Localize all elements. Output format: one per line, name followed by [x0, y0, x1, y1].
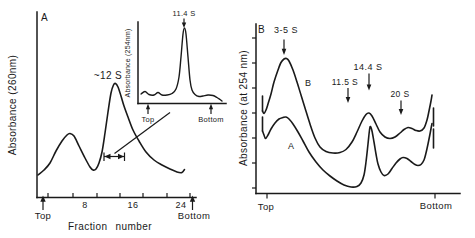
panel-a-bottom-label: Bottom [178, 210, 211, 221]
annotation-14-4s-arrow-icon [367, 74, 372, 91]
inset-top-label: Top [142, 115, 155, 124]
panel-a-inset: 11.4 S Top Bottom Absorbance (254nm) [124, 9, 226, 124]
panel-b-letter: B [258, 24, 265, 35]
annotation-11-5s: 11.5 S [332, 77, 358, 87]
inset-peak-annotation: 11.4 S [173, 9, 196, 18]
panel-a-curve [38, 83, 185, 175]
fraction-range-double-arrow-icon [104, 153, 125, 162]
panel-b-y-axis-title: Absorbance (at 254 nm) [238, 50, 249, 166]
panel-a-peak-annotation: ~12 S [94, 70, 122, 81]
panel-a-tick-16: 16 [127, 200, 138, 210]
annotation-20s-arrow-icon [399, 101, 404, 116]
panel-a: 8 16 24 Top Bottom Fraction number Absor… [7, 12, 210, 232]
panel-a-x-axis-title: Fraction number [68, 221, 152, 232]
panel-a-letter: A [41, 12, 48, 23]
annotation-20s: 20 S [390, 89, 409, 99]
panel-b-bottom-label: Bottom [420, 200, 453, 211]
panel-a-y-axis-title: Absorbance (260nm) [7, 55, 18, 156]
inset-peak-arrow-icon [182, 19, 186, 29]
inset-bottom-label: Bottom [198, 115, 224, 124]
panel-b-curve-upper [263, 58, 433, 153]
panel-a-tick-24: 24 [175, 200, 186, 210]
curve-upper-label: B [305, 78, 312, 88]
annotation-3-5s: 3-5 S [274, 25, 298, 35]
curve-lower-label: A [288, 141, 295, 151]
panel-b-top-label: Top [258, 201, 275, 212]
panel-b: B Absorbance (at 254 nm) 3-5 S 11.5 S 14… [238, 24, 460, 212]
panel-a-top-label: Top [35, 210, 52, 221]
annotation-11-5s-arrow-icon [346, 88, 351, 103]
annotation-14-4s: 14.4 S [353, 62, 382, 72]
inset-top-arrow-icon [146, 104, 150, 114]
inset-y-axis-title: Absorbance (254nm) [124, 29, 132, 98]
figure-canvas: 8 16 24 Top Bottom Fraction number Absor… [0, 0, 475, 238]
inset-curve [141, 28, 222, 101]
panel-a-tick-8: 8 [82, 200, 88, 210]
inset-bottom-arrow-icon [209, 104, 213, 114]
annotation-3-5s-arrow-icon [282, 40, 287, 56]
two-panel-sedimentation-figure: 8 16 24 Top Bottom Fraction number Absor… [0, 0, 475, 238]
